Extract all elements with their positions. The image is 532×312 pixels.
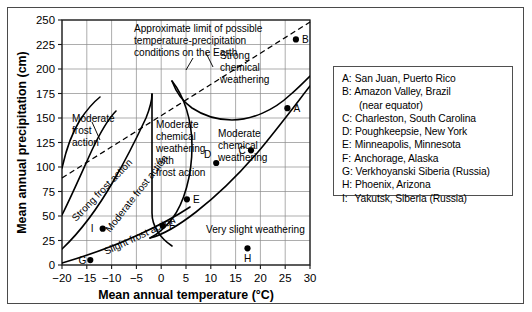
annotation-line: Approximate limit of possible [134, 23, 263, 34]
legend-label: Yakutsk, Siberia (Russia) [355, 193, 467, 204]
legend-label: Poughkeepsie, New York [355, 126, 467, 137]
legend-key: A: [342, 72, 352, 85]
y-tick-label: 50 [42, 210, 55, 222]
zone-label-line: chemical [220, 62, 260, 73]
data-point-label: I [91, 223, 94, 234]
data-point-label: A [294, 103, 301, 114]
zone-label-line: weathering [219, 74, 269, 85]
legend: A: San Juan, Puerto Rico B: Amazon Valle… [333, 66, 513, 196]
legend-label-continuation: (near equator) [359, 100, 423, 111]
zone-label-line: Moderate [156, 119, 199, 130]
data-point-H: H [244, 245, 251, 264]
legend-item-I: I: Yakutsk, Siberia (Russia) [342, 192, 505, 205]
earth-limit-leader-2 [186, 58, 193, 70]
legend-item-F: F: Anchorage, Alaska [342, 152, 505, 165]
data-point-I: I [91, 223, 106, 234]
x-axis-title: Mean annual temperature (°C) [98, 288, 274, 302]
data-point-label: C [239, 145, 246, 156]
zone-label-strong-chemical-weathering: Strong chemical weathering [219, 50, 269, 85]
x-tick-label: 5 [183, 272, 189, 284]
zone-label-moderate-chemical-weathering-with-frost-action: Moderate chemical weathering with frost … [155, 119, 205, 178]
legend-key: F: [342, 152, 352, 165]
legend-label: Phoenix, Arizona [355, 179, 431, 190]
legend-item-H: H: Phoenix, Arizona [342, 178, 505, 191]
legend-label: Verkhoyanski Siberia (Russia) [355, 166, 489, 177]
data-point-label: H [244, 253, 251, 264]
data-point-G: G [79, 255, 94, 266]
zone-label-line: frost action [156, 167, 205, 178]
zone-label-line: frost [72, 125, 92, 136]
legend-item-A: A: San Juan, Puerto Rico [342, 72, 505, 85]
y-tick-label: 150 [36, 112, 55, 124]
x-tick-label: 0 [158, 272, 164, 284]
y-axis-tick-labels: 250 225 200 175 150 125 100 75 50 25 0 [36, 14, 55, 271]
data-point-D: D [204, 149, 219, 166]
legend-key: C: [342, 112, 352, 125]
x-tick-label: 20 [254, 272, 267, 284]
y-tick-label: 250 [36, 14, 55, 26]
data-point-label: G [79, 255, 87, 266]
legend-item-B-continuation: (near equator) [342, 99, 505, 112]
legend-label: Anchorage, Alaska [354, 153, 438, 164]
y-tick-label: 175 [36, 88, 55, 100]
data-point-label: F [169, 220, 175, 231]
x-tick-label: −20 [52, 272, 71, 284]
x-tick-label: 30 [304, 272, 317, 284]
y-tick-label: 125 [36, 137, 55, 149]
y-axis-title: Mean annual precipitation (cm) [15, 51, 29, 233]
data-point-label: D [204, 149, 211, 160]
weathering-climate-figure: 250 225 200 175 150 125 100 75 50 25 0 −… [0, 0, 532, 312]
annotation-line: temperature-precipitation [134, 35, 246, 46]
legend-key: B: [342, 85, 352, 98]
y-tick-label: 225 [36, 39, 55, 51]
data-point-B: B [293, 34, 309, 45]
x-tick-label: 25 [279, 272, 292, 284]
legend-item-D: D: Poughkeepsie, New York [342, 125, 505, 138]
x-tick-label: −10 [102, 272, 121, 284]
x-tick-label: 15 [229, 272, 242, 284]
legend-label: Charleston, South Carolina [355, 113, 476, 124]
x-axis-tick-labels: −20 −15 −10 −5 0 5 10 15 20 25 30 [52, 272, 316, 284]
y-tick-label: 75 [42, 186, 55, 198]
legend-label: San Juan, Puerto Rico [355, 73, 456, 84]
legend-key: H: [342, 178, 352, 191]
x-tick-label: −15 [77, 272, 96, 284]
zone-label-line: with [155, 155, 174, 166]
legend-item-C: C: Charleston, South Carolina [342, 112, 505, 125]
y-tick-label: 100 [36, 161, 55, 173]
legend-label: Amazon Valley, Brazil [354, 86, 451, 97]
zone-label-very-slight-weathering: Very slight weathering [206, 224, 305, 235]
x-tick-label: 10 [204, 272, 217, 284]
legend-key: G: [342, 165, 353, 178]
zone-label-line: chemical [156, 131, 196, 142]
x-tick-label: −5 [130, 272, 143, 284]
zone-label-line: Moderate [218, 128, 261, 139]
y-tick-label: 0 [49, 259, 55, 271]
legend-key: E: [342, 138, 352, 151]
zone-label-line: Strong [220, 50, 250, 61]
data-point-label: E [193, 194, 200, 205]
legend-item-B: B: Amazon Valley, Brazil [342, 85, 505, 98]
zone-label-line: Moderate [72, 113, 115, 124]
legend-key: D: [342, 125, 352, 138]
zone-label-line: weathering [155, 143, 205, 154]
zone-label-line: action [72, 137, 99, 148]
y-tick-label: 25 [42, 235, 55, 247]
y-tick-label: 200 [36, 63, 55, 75]
data-point-label: B [302, 34, 309, 45]
legend-item-G: G: Verkhoyanski Siberia (Russia) [342, 165, 505, 178]
legend-label: Minneapolis, Minnesota [355, 139, 461, 150]
legend-key: I: [342, 192, 352, 205]
legend-item-E: E: Minneapolis, Minnesota [342, 138, 505, 151]
